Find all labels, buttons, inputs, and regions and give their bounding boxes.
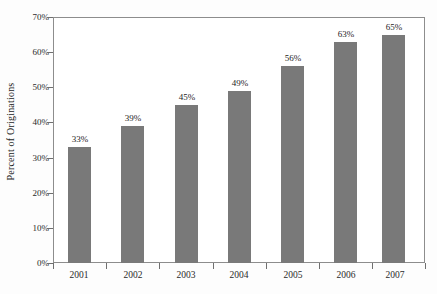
x-tick-label-2001: 2001 — [56, 270, 102, 280]
x-tick-label-2004: 2004 — [216, 270, 262, 280]
bar-2001[interactable] — [68, 147, 91, 263]
bar-value-2004: 49% — [220, 78, 260, 88]
x-tick-label-2003: 2003 — [163, 270, 209, 280]
bar-value-2006: 63% — [326, 29, 366, 39]
x-tick-label-2002: 2002 — [110, 270, 156, 280]
bar-value-2002: 39% — [113, 113, 153, 123]
bar-2004[interactable] — [228, 91, 251, 263]
bar-2005[interactable] — [281, 66, 304, 263]
x-tick-label-2007: 2007 — [372, 270, 418, 280]
bar-value-2005: 56% — [273, 53, 313, 63]
bars-layer: 33% 39% 45% 49% 56% 63% 65% — [0, 0, 437, 294]
bar-value-2001: 33% — [60, 134, 100, 144]
bar-value-2007: 65% — [374, 22, 414, 32]
bar-2002[interactable] — [121, 126, 144, 263]
bar-2006[interactable] — [334, 42, 357, 263]
x-tick-label-2005: 2005 — [270, 270, 316, 280]
x-tick-label-2006: 2006 — [323, 270, 369, 280]
bar-value-2003: 45% — [167, 92, 207, 102]
bar-2003[interactable] — [175, 105, 198, 263]
bar-chart: Percent of Originations 70% 60% 50% 40% … — [0, 0, 437, 294]
bar-2007[interactable] — [382, 35, 405, 263]
